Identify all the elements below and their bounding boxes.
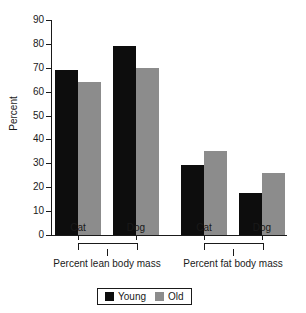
group-label: Percent fat body mass [163, 258, 303, 269]
group-bracket [78, 243, 138, 250]
y-axis-tick [46, 68, 51, 69]
y-axis-tick-label: 30 [18, 158, 44, 168]
y-axis-tick-label: 10 [18, 206, 44, 216]
x-axis-tick [136, 235, 137, 240]
legend-item-young: Young [105, 291, 146, 302]
plot-area [51, 20, 286, 235]
y-axis-tick [46, 211, 51, 212]
y-axis-tick [46, 139, 51, 140]
legend-label-old: Old [168, 291, 184, 302]
x-axis-line [51, 235, 287, 236]
y-axis-tick-label: 50 [18, 111, 44, 121]
y-axis-tick-label: 80 [18, 39, 44, 49]
x-axis-category-label: Dog [237, 222, 287, 233]
y-axis-tick [46, 163, 51, 164]
y-axis-tick-label: 0 [18, 230, 44, 240]
y-axis-line [51, 20, 52, 236]
group-bracket [204, 243, 264, 250]
y-axis-tick-label: 40 [18, 134, 44, 144]
y-axis-tick-label: 60 [18, 87, 44, 97]
legend-swatch-old [155, 292, 164, 301]
legend-swatch-young [105, 292, 114, 301]
y-axis-tick [46, 20, 51, 21]
y-axis-tick-label: 70 [18, 63, 44, 73]
legend-item-old: Old [155, 291, 184, 302]
bar-old-0 [78, 82, 101, 235]
y-axis-tick-label: 20 [18, 182, 44, 192]
x-axis-tick [262, 235, 263, 240]
bar-old-1 [136, 68, 159, 235]
chart-legend: Young Old [97, 288, 192, 305]
y-axis-tick [46, 116, 51, 117]
y-axis-tick [46, 44, 51, 45]
x-axis-tick [204, 235, 205, 240]
legend-label-young: Young [118, 291, 146, 302]
y-axis-tick [46, 235, 51, 236]
y-axis-title: Percent [8, 79, 19, 149]
group-label: Percent lean body mass [37, 258, 177, 269]
x-axis-category-label: Cat [179, 222, 229, 233]
bar-chart-figure: Percent 0102030405060708090 CatDogCatDog… [0, 0, 306, 313]
x-axis-category-label: Cat [53, 222, 103, 233]
x-axis-category-label: Dog [111, 222, 161, 233]
y-axis-tick-label: 90 [18, 15, 44, 25]
x-axis-tick [78, 235, 79, 240]
y-axis-tick [46, 92, 51, 93]
bar-young-1 [113, 46, 136, 235]
bar-young-0 [55, 70, 78, 235]
group-bracket-stem [233, 249, 234, 256]
y-axis-tick [46, 187, 51, 188]
group-bracket-stem [107, 249, 108, 256]
